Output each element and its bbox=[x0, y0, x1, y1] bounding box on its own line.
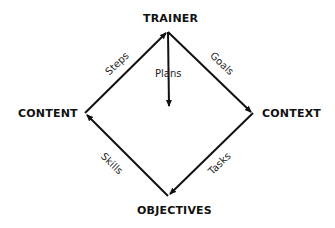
arrow-steps bbox=[85, 33, 166, 113]
arrow-tasks bbox=[170, 113, 253, 194]
edge-label-plans: Plans bbox=[155, 68, 181, 79]
node-trainer: TRAINER bbox=[143, 12, 198, 25]
node-content: CONTENT bbox=[18, 107, 78, 120]
node-context: CONTEXT bbox=[262, 107, 321, 120]
diagram: TRAINER CONTENT CONTEXT OBJECTIVES Steps… bbox=[0, 0, 335, 228]
node-objectives: OBJECTIVES bbox=[137, 204, 212, 217]
arrow-skills bbox=[87, 115, 168, 196]
